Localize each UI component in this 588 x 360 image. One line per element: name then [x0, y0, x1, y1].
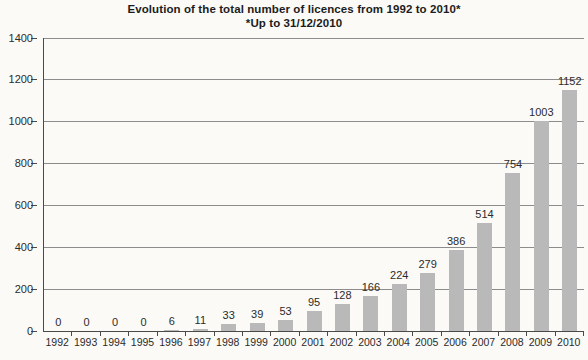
bar: [420, 273, 435, 331]
y-axis: 0200400600800100012001400: [0, 38, 36, 331]
x-axis-label: 2000: [273, 336, 296, 348]
chart-subtitle: *Up to 31/12/2010: [0, 17, 588, 31]
y-axis-label: 1200: [9, 73, 33, 85]
x-axis-label: 2004: [387, 336, 410, 348]
bar: [278, 320, 293, 331]
bar-value-label: 754: [504, 158, 522, 170]
x-axis-label: 2001: [301, 336, 324, 348]
bar-value-label: 1003: [529, 106, 553, 118]
gridline: [44, 205, 584, 206]
scanned-chart-page: Evolution of the total number of licence…: [0, 0, 588, 360]
x-axis-label: 1998: [216, 336, 239, 348]
y-axis-label: 0: [27, 325, 33, 337]
bar-value-label: 279: [418, 258, 436, 270]
x-axis-label: 1996: [159, 336, 182, 348]
gridline: [44, 38, 584, 39]
bar-value-label: 95: [308, 296, 320, 308]
bar-value-label: 0: [55, 316, 61, 328]
gridline: [44, 289, 584, 290]
gridline: [44, 79, 584, 80]
bar: [164, 330, 179, 331]
plot-area: 0000611333953951281662242793865147541003…: [43, 38, 584, 332]
bar-value-label: 128: [333, 289, 351, 301]
bar-value-label: 0: [140, 316, 146, 328]
x-axis: 1992199319941995199619971998199920002001…: [43, 336, 583, 350]
bar: [193, 329, 208, 331]
y-axis-label: 800: [15, 157, 33, 169]
x-axis-label: 1992: [46, 336, 69, 348]
x-axis-label: 2008: [500, 336, 523, 348]
bar: [335, 304, 350, 331]
bar-value-label: 0: [112, 316, 118, 328]
gridline: [44, 121, 584, 122]
y-axis-label: 400: [15, 241, 33, 253]
chart-title: Evolution of the total number of licence…: [0, 3, 588, 17]
bar: [392, 284, 407, 331]
bar: [307, 311, 322, 331]
bar-value-label: 514: [475, 208, 493, 220]
bar-value-label: 39: [251, 308, 263, 320]
x-axis-label: 2005: [415, 336, 438, 348]
bar-value-label: 224: [390, 269, 408, 281]
x-axis-label: 1999: [244, 336, 267, 348]
x-axis-label: 1993: [74, 336, 97, 348]
bar: [562, 90, 577, 331]
bar-value-label: 1152: [558, 75, 582, 87]
x-axis-label: 2007: [472, 336, 495, 348]
x-axis-label: 2009: [529, 336, 552, 348]
bar: [477, 223, 492, 331]
bar: [250, 323, 265, 331]
x-axis-label: 1997: [188, 336, 211, 348]
bar-value-label: 33: [223, 309, 235, 321]
x-axis-label: 1994: [102, 336, 125, 348]
chart-title-block: Evolution of the total number of licence…: [0, 3, 588, 30]
y-axis-label: 200: [15, 283, 33, 295]
x-axis-label: 2002: [330, 336, 353, 348]
x-axis-label: 2003: [358, 336, 381, 348]
bar-value-label: 0: [84, 316, 90, 328]
bar: [505, 173, 520, 331]
gridline: [44, 247, 584, 248]
bar: [363, 296, 378, 331]
y-axis-label: 1000: [9, 115, 33, 127]
bar-value-label: 11: [195, 314, 206, 326]
x-axis-tick: [583, 331, 584, 336]
y-axis-label: 600: [15, 199, 33, 211]
bar-value-label: 386: [447, 235, 465, 247]
bar-value-label: 53: [279, 305, 291, 317]
y-axis-label: 1400: [9, 32, 33, 44]
bar-value-label: 166: [362, 281, 380, 293]
bar: [221, 324, 236, 331]
x-axis-label: 1995: [131, 336, 154, 348]
bar-value-label: 6: [169, 315, 175, 327]
x-axis-label: 2010: [557, 336, 580, 348]
bar: [534, 121, 549, 331]
bar: [449, 250, 464, 331]
x-axis-label: 2006: [443, 336, 466, 348]
